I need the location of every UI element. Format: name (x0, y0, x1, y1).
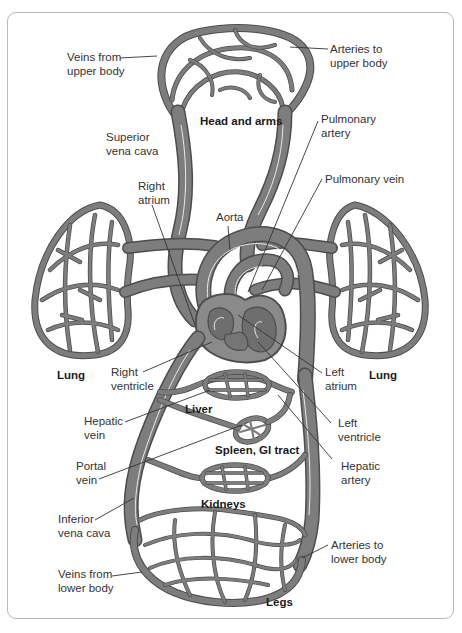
label-inferior-vena-cava: Inferior vena cava (58, 513, 110, 540)
label-veins-from-upper-body: Veins from upper body (67, 51, 125, 78)
label-left-ventricle: Left ventricle (338, 417, 381, 444)
label-legs: Legs (266, 596, 293, 610)
heart (196, 294, 286, 362)
label-spleen-gi-tract: Spleen, GI tract (215, 444, 299, 458)
label-pulmonary-vein: Pulmonary vein (325, 173, 404, 187)
label-hepatic-vein: Hepatic vein (84, 415, 123, 442)
label-right-ventricle: Right ventricle (111, 366, 154, 393)
label-arteries-to-upper-body: Arteries to upper body (330, 43, 388, 70)
label-veins-from-lower-body: Veins from lower body (58, 568, 114, 595)
label-lung-right: Lung (369, 369, 397, 383)
label-kidneys: Kidneys (201, 498, 246, 512)
label-lung-left: Lung (57, 369, 85, 383)
label-head-and-arms: Head and arms (200, 115, 282, 129)
spleen-gi-capillaries (160, 395, 290, 446)
label-portal-vein: Portal vein (76, 460, 106, 487)
head-arms-capillaries (161, 28, 310, 115)
superior-vena-cava (175, 112, 195, 320)
kidneys-capillaries (148, 455, 305, 491)
label-liver: Liver (185, 403, 213, 417)
label-arteries-to-lower-body: Arteries to lower body (331, 539, 387, 566)
label-superior-vena-cava: Superior vena cava (106, 131, 158, 158)
label-pulmonary-artery: Pulmonary artery (321, 113, 376, 140)
label-left-atrium: Left atrium (325, 366, 357, 393)
label-hepatic-artery: Hepatic artery (341, 460, 380, 487)
label-right-atrium: Right atrium (138, 180, 170, 207)
legs-capillaries (134, 509, 305, 603)
label-aorta: Aorta (216, 211, 244, 225)
